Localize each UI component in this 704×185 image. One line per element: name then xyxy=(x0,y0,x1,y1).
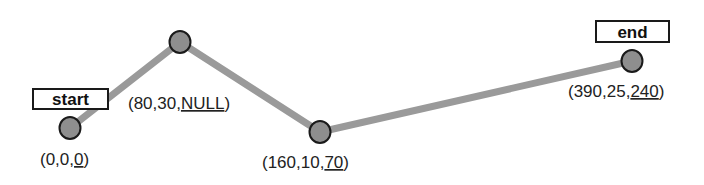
path-edge xyxy=(70,42,632,132)
waypoint-node xyxy=(310,121,331,143)
waypoint-coordinate-label: (0,0,0) xyxy=(40,150,89,169)
start-tag-label: start xyxy=(52,90,89,109)
start-tag: start xyxy=(33,89,108,109)
end-tag-label: end xyxy=(617,23,647,42)
waypoint-coordinate-label: (390,25,240) xyxy=(568,82,664,101)
end-tag: end xyxy=(596,21,669,42)
waypoint-coordinate-label: (160,10,70) xyxy=(262,153,349,172)
waypoint-node xyxy=(622,50,643,72)
waypoint-node xyxy=(60,117,81,139)
waypoint-coordinate-label: (80,30,NULL) xyxy=(128,94,230,113)
waypoint-path-diagram: (0,0,0)(80,30,NULL)(160,10,70)(390,25,24… xyxy=(0,0,704,185)
waypoint-node xyxy=(170,31,191,53)
